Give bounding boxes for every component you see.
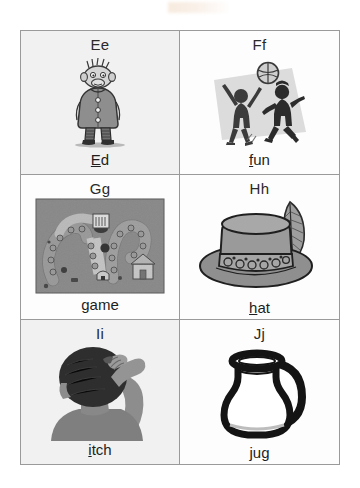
flashcard-cell-j[interactable]: Jj jug: [180, 320, 339, 464]
picture-board-game: [21, 196, 179, 296]
word-label-hat: hat: [249, 300, 270, 315]
word-label-ed: Ed: [91, 152, 109, 167]
flashcard-cell-i[interactable]: Ii: [21, 320, 180, 464]
scan-artifact: [168, 2, 228, 13]
alphabet-chart-grid: Ee: [20, 30, 340, 465]
word-label-fun: fun: [249, 152, 270, 167]
letter-label-g: Gg: [90, 181, 111, 196]
flashcard-cell-f[interactable]: Ff: [180, 31, 339, 175]
word-rest-ed: d: [101, 151, 109, 168]
letter-label-j: Jj: [254, 326, 265, 341]
word-label-itch: itch: [88, 442, 111, 457]
picture-hat-with-feather: [180, 196, 339, 300]
word-rest-jug: jug: [249, 444, 269, 461]
word-rest-fun: un: [253, 151, 270, 168]
picture-ogre-character: [21, 52, 179, 152]
word-label-game: game: [81, 297, 119, 312]
word-underlined-letter-e: E: [91, 151, 101, 168]
word-rest-itch: tch: [92, 441, 112, 458]
flashcard-cell-g[interactable]: Gg: [21, 175, 180, 319]
word-label-jug: jug: [249, 445, 269, 460]
word-underlined-letter-g: g: [81, 296, 89, 313]
word-rest-game: ame: [90, 296, 119, 313]
letter-label-f: Ff: [253, 37, 267, 52]
flashcard-cell-h[interactable]: Hh: [180, 175, 339, 319]
picture-jug: [180, 341, 339, 445]
picture-children-playing-ball: [180, 52, 339, 152]
letter-label-h: Hh: [250, 181, 270, 196]
flashcard-cell-e[interactable]: Ee: [21, 31, 180, 175]
letter-label-i: Ii: [96, 326, 104, 341]
picture-person-scratching-head: [21, 341, 179, 442]
word-rest-hat: at: [257, 299, 270, 316]
letter-label-e: Ee: [91, 37, 110, 52]
